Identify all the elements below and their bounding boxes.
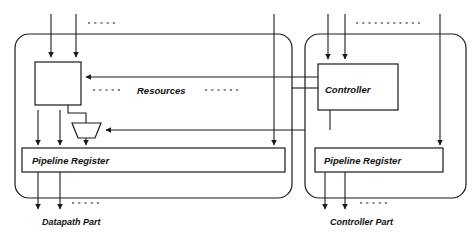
controller-pipeline-register-label: Pipeline Register [324,155,402,166]
resources-label: Resources [137,85,186,96]
controller-part-caption: Controller Part [330,217,394,227]
datapath-pipeline-register-label: Pipeline Register [32,155,110,166]
controller-panel [305,34,466,198]
resources-to-mux-wire [68,105,86,123]
resources-block [35,62,81,105]
diagram-svg: Resources Controller Pipeline Register P… [0,0,476,245]
datapath-part-caption: Datapath Part [42,217,102,227]
datapath-panel [15,34,292,198]
controller-label: Controller [325,84,372,95]
mux-block [72,123,101,138]
diagram-canvas: Resources Controller Pipeline Register P… [0,0,476,245]
